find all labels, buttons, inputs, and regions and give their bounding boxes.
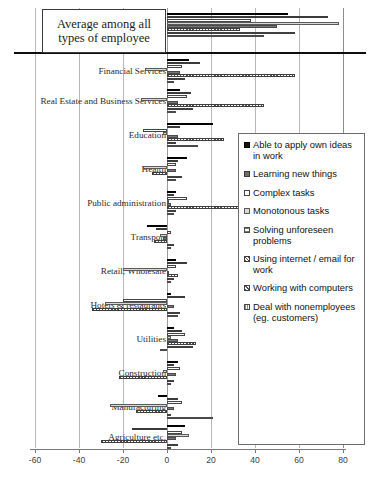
bar [167, 401, 182, 404]
x-tick-label: -60 [29, 455, 41, 465]
bar [167, 346, 193, 349]
x-tick-label: 40 [250, 455, 260, 465]
bar [167, 111, 176, 114]
x-tick-label: 60 [294, 455, 304, 465]
category-group: Real Estate and Business Services [0, 86, 370, 116]
legend-swatch-icon [244, 285, 250, 291]
legend-label: Complex tasks [253, 188, 314, 199]
bar [136, 410, 167, 413]
bar [167, 231, 171, 234]
legend-item[interactable]: Solving unforeseen problems [243, 225, 361, 246]
bar [167, 197, 187, 200]
x-tick-label: -20 [117, 455, 129, 465]
category-group: Financial Services [0, 56, 370, 86]
bar [167, 179, 176, 182]
bar [110, 404, 167, 407]
bar [154, 240, 167, 243]
bar [156, 228, 167, 231]
legend-swatch-icon [244, 256, 250, 262]
x-tick [299, 449, 300, 453]
bar [167, 373, 176, 376]
legend-label: Working with computers [253, 283, 353, 294]
x-tick [79, 449, 80, 453]
legend-label: Deal with nonemployees (eg. customers) [253, 302, 361, 323]
average-callout-box: Average among alltypes of employee [42, 9, 166, 53]
bar [92, 308, 167, 311]
legend-swatch-icon [244, 190, 250, 196]
bar [167, 265, 176, 268]
legend-swatch-icon [244, 227, 250, 233]
average-callout-line1: Average among all [57, 17, 151, 31]
bar [167, 81, 174, 84]
legend-swatch-icon [244, 208, 250, 214]
bar [101, 440, 167, 443]
bar [141, 98, 167, 101]
bar [167, 425, 185, 428]
bar [167, 65, 182, 68]
legend-item[interactable]: Learning new things [243, 169, 361, 180]
bar [143, 166, 167, 169]
bar [167, 417, 213, 420]
bar [158, 395, 167, 398]
legend-item[interactable]: Able to apply own ideas in work [243, 140, 361, 161]
bar [152, 172, 167, 175]
x-tick-label: 0 [165, 455, 170, 465]
bar [167, 213, 174, 216]
x-tick [35, 449, 36, 453]
bar [167, 437, 176, 440]
legend-swatch-icon [244, 171, 250, 177]
bar [167, 126, 180, 129]
legend-swatch-icon [244, 142, 250, 148]
legend-item[interactable]: Monotonous tasks [243, 206, 361, 217]
bar [105, 302, 167, 305]
bar [167, 367, 180, 370]
x-tick-label: 20 [206, 455, 216, 465]
bar [167, 305, 174, 308]
x-tick-label: -40 [73, 455, 85, 465]
legend-item[interactable]: Deal with nonemployees (eg. customers) [243, 302, 361, 323]
bar [167, 163, 176, 166]
x-tick [211, 449, 212, 453]
x-tick [343, 449, 344, 453]
bar [123, 268, 167, 271]
x-tick [167, 449, 168, 453]
legend-item[interactable]: Complex tasks [243, 188, 361, 199]
bar [160, 349, 167, 352]
legend-item[interactable]: Using internet / email for work [243, 254, 361, 275]
bar [167, 383, 171, 386]
bar [167, 247, 171, 250]
bar [167, 315, 178, 318]
bar-cluster [0, 86, 370, 116]
bar [167, 169, 176, 172]
bar [167, 95, 187, 98]
bar [167, 35, 264, 38]
legend-label: Solving unforeseen problems [253, 225, 361, 246]
legend-swatch-icon [244, 304, 250, 310]
bar [132, 428, 167, 431]
x-tick-label: 80 [338, 455, 348, 465]
bar [167, 407, 174, 410]
legend-label: Using internet / email for work [253, 254, 361, 275]
x-tick [255, 449, 256, 453]
legend-label: Learning new things [253, 169, 337, 180]
bar [167, 145, 198, 148]
x-tick [123, 449, 124, 453]
legend-item[interactable]: Working with computers [243, 283, 361, 294]
bar [167, 74, 295, 77]
bar [167, 281, 171, 284]
bar-cluster [0, 56, 370, 86]
bar [145, 68, 167, 71]
average-callout-text: Average among alltypes of employee [57, 17, 151, 46]
bar [167, 296, 185, 299]
chart-legend: Able to apply own ideas in workLearning … [238, 133, 365, 445]
x-axis: -60-40-20020406080 [0, 449, 370, 479]
bar-chart: Financial ServicesReal Estate and Busine… [0, 0, 370, 480]
average-callout-line2: types of employee [58, 31, 150, 45]
legend-label: Monotonous tasks [253, 206, 329, 217]
legend-label: Able to apply own ideas in work [253, 140, 361, 161]
bar [119, 376, 167, 379]
